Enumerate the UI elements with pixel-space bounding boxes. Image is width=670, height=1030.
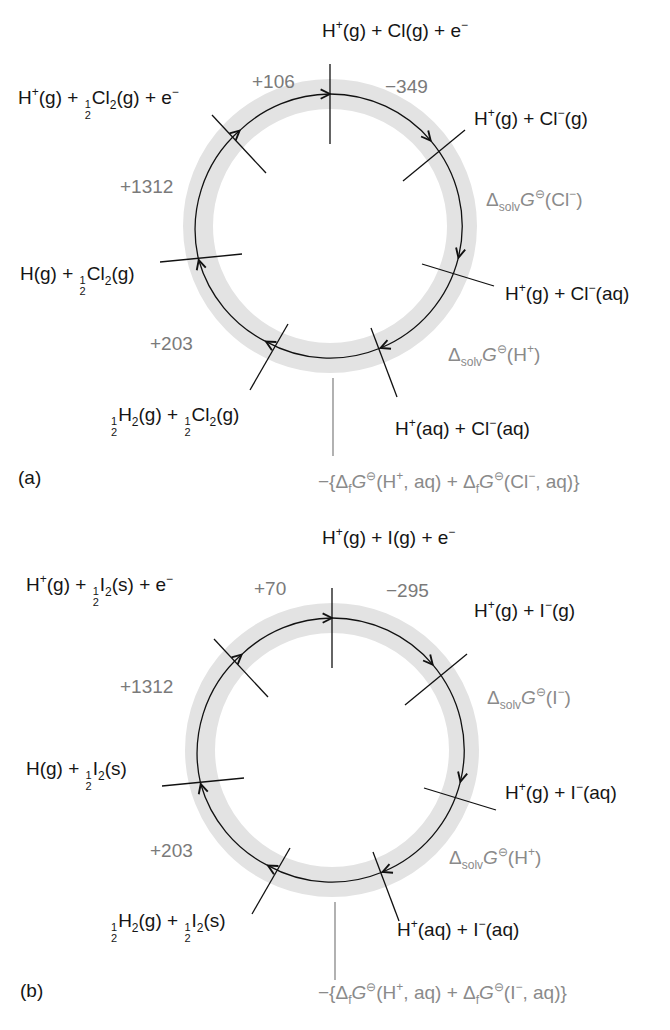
value-atomization: +70 xyxy=(254,578,286,600)
species-top-right: H+(g) + Cl−(g) xyxy=(474,108,588,130)
label-solvation-cation: ΔsolvG⊖(H+) xyxy=(449,847,541,869)
species-right: H+(g) + Cl−(aq) xyxy=(505,283,629,305)
fraction: 12 xyxy=(111,416,117,438)
fraction: 12 xyxy=(184,922,190,944)
species-top-left: H+(g) + 12Cl2(g) + e− xyxy=(18,87,179,121)
fraction: 12 xyxy=(86,770,92,792)
species-left: H(g) + 12I2(s) xyxy=(26,758,127,792)
value-electron-gain: −295 xyxy=(386,580,429,602)
species-right: H+(g) + I−(aq) xyxy=(505,782,617,804)
species-top: H+(g) + Cl(g) + e− xyxy=(322,20,468,42)
species-bottom-left: 12H2(g) + 12I2(s) xyxy=(110,910,226,944)
label-solvation-anion: ΔsolvG⊖(Cl−) xyxy=(486,189,582,211)
value-atomization: +106 xyxy=(252,71,295,93)
value-ionization: +1312 xyxy=(120,176,173,198)
species-bottom-left: 12H2(g) + 12Cl2(g) xyxy=(110,404,239,438)
fraction: 12 xyxy=(93,586,99,608)
panel-tag-b: (b) xyxy=(20,980,43,1002)
thermodynamic-cycle-a xyxy=(0,0,670,515)
fraction: 12 xyxy=(184,416,190,438)
species-top-right: H+(g) + I−(g) xyxy=(474,600,575,622)
label-formation: −{ΔfG⊖(H+, aq) + ΔfG⊖(I−, aq)} xyxy=(318,982,567,1004)
label-solvation-cation: ΔsolvG⊖(H+) xyxy=(448,344,540,366)
species-top: H+(g) + I(g) + e− xyxy=(322,527,455,549)
cycle-panel-a: H+(g) + Cl(g) + e− H+(g) + 12Cl2(g) + e−… xyxy=(0,0,670,515)
value-dissociation: +203 xyxy=(150,333,193,355)
value-ionization: +1312 xyxy=(120,676,173,698)
species-left: H(g) + 12Cl2(g) xyxy=(20,263,135,297)
species-bottom-right: H+(aq) + I−(aq) xyxy=(397,919,519,941)
label-solvation-anion: ΔsolvG⊖(I−) xyxy=(487,687,571,709)
species-bottom-right: H+(aq) + Cl−(aq) xyxy=(395,418,530,440)
value-dissociation: +203 xyxy=(150,840,193,862)
label-formation: −{ΔfG⊖(H+, aq) + ΔfG⊖(Cl−, aq)} xyxy=(318,471,580,493)
fraction: 12 xyxy=(111,922,117,944)
value-electron-gain: −349 xyxy=(385,76,428,98)
fraction: 12 xyxy=(80,275,86,297)
panel-tag-a: (a) xyxy=(18,467,41,489)
species-top-left: H+(g) + 12I2(s) + e− xyxy=(26,574,173,608)
fraction: 12 xyxy=(85,99,91,121)
cycle-panel-b: H+(g) + I(g) + e− H+(g) + 12I2(s) + e− H… xyxy=(0,524,670,1030)
